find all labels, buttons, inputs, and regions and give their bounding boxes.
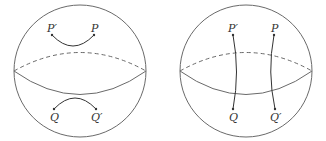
right-curve-p-to-q-prime [271, 35, 275, 109]
right-label-p: P [270, 22, 279, 35]
left-equator-back [14, 53, 146, 72]
right-sphere-outline [180, 5, 312, 137]
left-label-q-prime: Q′ [91, 111, 103, 124]
left-equator-front [14, 71, 146, 95]
right-label-q-prime: Q′ [270, 111, 282, 124]
right-equator-front [180, 71, 312, 95]
left-sphere-outline [14, 5, 146, 137]
left-label-p-prime: P′ [46, 22, 57, 35]
left-arc-p-prime-to-p [52, 35, 94, 46]
left-arc-q-to-q-prime [54, 98, 96, 109]
right-sphere: P′ Q P Q′ [180, 5, 312, 137]
right-label-p-prime: P′ [227, 22, 238, 35]
diagram-canvas: P′ P Q Q′ P′ Q P Q′ [0, 0, 326, 141]
left-point-q [53, 108, 55, 110]
right-label-q: Q [229, 111, 238, 124]
left-label-p: P [90, 22, 99, 35]
left-label-q: Q [50, 111, 59, 124]
left-sphere: P′ P Q Q′ [14, 5, 146, 137]
right-point-q-prime [274, 108, 276, 110]
left-point-q-prime [95, 108, 97, 110]
right-point-q [232, 108, 234, 110]
right-curve-p-prime-to-q [233, 35, 237, 109]
right-equator-back [180, 53, 312, 72]
